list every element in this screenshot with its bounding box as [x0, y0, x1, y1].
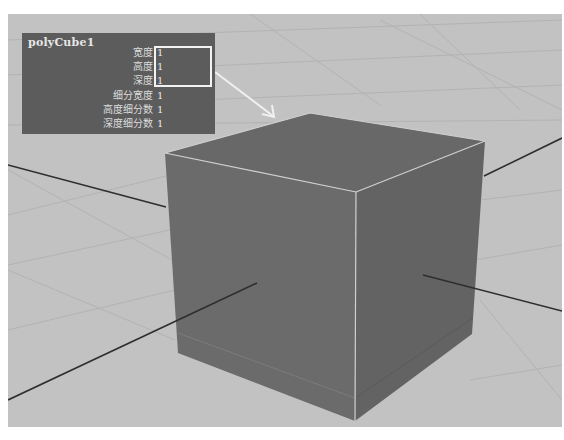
- attr-row-subdivisions-height[interactable]: 高度细分数 1: [22, 103, 215, 117]
- annotation-arrow: [215, 72, 274, 117]
- attr-label: 高度: [133, 60, 153, 74]
- attr-label: 宽度: [133, 46, 153, 60]
- 3d-viewport[interactable]: polyCube1 宽度 1 高度 1 深度 1 细分宽度 1 高度细分数 1 …: [8, 14, 562, 427]
- x-axis-line-left: [8, 165, 166, 207]
- attr-value[interactable]: 1: [157, 89, 163, 103]
- attribute-overlay-panel: polyCube1 宽度 1 高度 1 深度 1 细分宽度 1 高度细分数 1 …: [22, 33, 215, 134]
- z-axis-line-right: [484, 138, 562, 176]
- attr-value[interactable]: 1: [157, 117, 163, 131]
- attr-row-subdivisions-depth[interactable]: 深度细分数 1: [22, 117, 215, 131]
- cube-left-face[interactable]: [165, 153, 356, 421]
- attr-label: 细分宽度: [113, 89, 153, 103]
- attr-label: 高度细分数: [103, 103, 153, 117]
- attr-row-subdivisions-width[interactable]: 细分宽度 1: [22, 89, 215, 103]
- poly-cube[interactable]: [165, 113, 485, 421]
- attr-value[interactable]: 1: [157, 103, 163, 117]
- attr-label: 深度: [133, 74, 153, 88]
- highlight-box: [154, 46, 212, 87]
- attr-label: 深度细分数: [103, 117, 153, 131]
